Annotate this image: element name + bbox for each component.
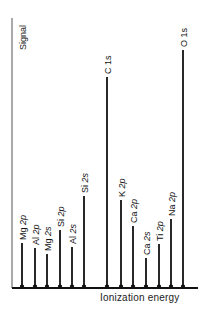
peak-label: C 1s: [103, 55, 113, 74]
peak-label: Si 2s: [80, 172, 90, 193]
peaks-group: Mg 2pAl 2pMg 2sSi 2pAl 2sSi 2sC 1sK 2pCa…: [18, 27, 189, 287]
peak-label: Al 2p: [31, 224, 41, 245]
peak-label: Al 2s: [68, 223, 78, 244]
peak-label: Na 2p: [167, 192, 177, 216]
y-axis-label: Signal: [18, 25, 28, 50]
peak-label: K 2p: [117, 178, 127, 197]
peak-label: O 1s: [179, 27, 189, 47]
peak-label: Ca 2p: [129, 199, 139, 223]
peak-label: Ca 2s: [142, 231, 152, 255]
xps-spectrum-chart: Signal Mg 2pAl 2pMg 2sSi 2pAl 2sSi 2sC 1…: [0, 0, 211, 319]
peak-label: Ti 2p: [155, 221, 165, 241]
peak-label: Mg 2s: [43, 226, 53, 251]
peak-label: Si 2p: [56, 206, 66, 227]
peak-label: Mg 2p: [18, 215, 28, 240]
x-axis-label: Ionization energy: [100, 292, 180, 303]
